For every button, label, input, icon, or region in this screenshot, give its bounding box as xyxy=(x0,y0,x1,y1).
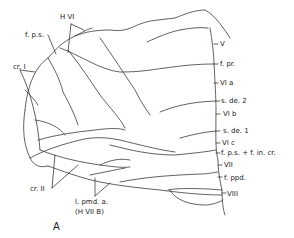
label-f-pr: f. pr. xyxy=(220,60,235,68)
label-vi-c: VI c xyxy=(222,139,235,147)
cerebellum-diagram: H VI f. p.s. cr. I cr. II l. pmd. a. (H … xyxy=(0,0,294,238)
label-v: V xyxy=(220,40,225,48)
label-f-ps-f-in-cr: f. p.s. + f. in. cr. xyxy=(221,149,276,157)
label-s-de-1: s. de. 1 xyxy=(223,127,249,135)
label-h-vi: H VI xyxy=(60,13,74,21)
label-viii: VIII xyxy=(227,190,238,198)
label-h-vii-b: (H VII B) xyxy=(75,208,104,216)
left-lobe-lines xyxy=(20,24,222,196)
label-cr-i: cr. I xyxy=(13,63,26,71)
label-s-de-2: s. de. 2 xyxy=(221,97,247,105)
label-f-ps-top: f. p.s. xyxy=(25,31,44,39)
label-vi-b: VI b xyxy=(223,110,237,118)
panel-label-a: A xyxy=(53,221,60,232)
label-cr-ii: cr. II xyxy=(30,185,45,193)
label-l-pmd-a: l. pmd. a. xyxy=(75,198,108,206)
label-vi-a: VI a xyxy=(220,79,233,87)
label-f-ppd: f. ppd. xyxy=(224,174,246,182)
label-vii: VII xyxy=(224,161,233,169)
